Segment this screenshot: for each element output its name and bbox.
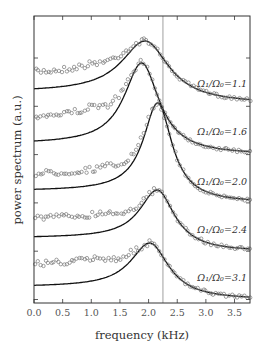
data-point <box>106 106 109 109</box>
data-point <box>70 111 73 114</box>
data-point <box>95 63 98 66</box>
data-point <box>75 68 78 71</box>
data-point <box>137 143 140 146</box>
series-label: Ω₁/Ω₀=3.1 <box>196 272 247 283</box>
data-point <box>52 215 55 218</box>
data-point <box>36 260 39 263</box>
x-tick-label: 0.0 <box>26 307 41 318</box>
data-point <box>55 258 58 261</box>
data-point <box>62 65 65 68</box>
data-point <box>46 261 49 264</box>
data-point <box>122 51 125 54</box>
data-point <box>119 55 122 58</box>
series-label: Ω₁/Ω₀=1.1 <box>196 78 247 89</box>
x-axis-label: frequency (kHz) <box>95 328 189 342</box>
data-point <box>104 103 107 106</box>
data-point <box>86 65 89 68</box>
data-point <box>122 212 125 215</box>
data-point <box>39 215 42 218</box>
data-point <box>127 253 130 256</box>
data-point <box>139 136 142 139</box>
data-point <box>109 259 112 262</box>
data-point <box>134 41 137 44</box>
data-point <box>85 171 88 174</box>
x-tick-label: 3.0 <box>198 307 213 318</box>
data-point <box>129 248 132 251</box>
data-point <box>59 263 62 266</box>
data-point <box>49 71 52 74</box>
x-tick-label: 2.5 <box>170 307 185 318</box>
x-tick-label: 1.5 <box>112 307 127 318</box>
fit-curve <box>34 41 249 100</box>
data-point <box>91 210 94 213</box>
data-point <box>102 257 105 260</box>
series-label: Ω₁/Ω₀=1.6 <box>196 126 247 137</box>
data-point <box>132 153 135 156</box>
data-point <box>86 108 89 111</box>
data-point <box>124 82 127 85</box>
data-point <box>126 78 129 81</box>
data-point <box>140 201 143 204</box>
data-point <box>135 246 138 249</box>
trace-1 <box>34 37 252 103</box>
data-point <box>39 71 42 74</box>
data-point <box>88 165 91 168</box>
power-spectrum-chart: 0.00.51.01.52.02.53.03.5 Ω₁/Ω₀=1.1Ω₁/Ω₀=… <box>0 0 263 352</box>
data-point <box>101 213 104 216</box>
data-point <box>152 187 155 190</box>
data-point <box>104 259 107 262</box>
spectrum-traces <box>33 37 252 300</box>
data-point <box>71 69 74 72</box>
data-point <box>88 216 91 219</box>
series-label: Ω₁/Ω₀=2.0 <box>196 176 247 187</box>
x-tick-label: 0.5 <box>55 307 70 318</box>
data-point <box>129 207 132 210</box>
data-point <box>73 107 76 110</box>
data-point <box>36 214 39 217</box>
data-point <box>49 170 52 173</box>
data-point <box>134 148 137 151</box>
data-point <box>101 103 104 106</box>
data-point <box>132 252 135 255</box>
data-point <box>75 257 78 260</box>
x-tick-label: 3.5 <box>227 307 242 318</box>
data-point <box>111 99 114 102</box>
data-point <box>112 256 115 259</box>
data-point <box>57 215 60 218</box>
x-tick-label: 2.0 <box>141 307 156 318</box>
data-point <box>139 58 142 61</box>
data-point <box>106 162 109 165</box>
data-point <box>114 95 117 98</box>
data-point <box>109 103 112 106</box>
data-point <box>93 103 96 106</box>
trace-3 <box>34 102 252 202</box>
data-point <box>84 166 87 169</box>
series-label: Ω₁/Ω₀=2.4 <box>196 224 247 235</box>
fit-curve <box>34 63 249 152</box>
data-point <box>60 70 63 73</box>
series-labels: Ω₁/Ω₀=1.1Ω₁/Ω₀=1.6Ω₁/Ω₀=2.0Ω₁/Ω₀=2.4Ω₁/Ω… <box>196 78 247 283</box>
data-point <box>95 165 98 168</box>
y-axis-label: power spectrum (a.u.) <box>10 95 24 224</box>
data-point <box>59 114 62 117</box>
data-point <box>98 60 101 63</box>
data-point <box>44 259 47 262</box>
x-tick-label: 1.0 <box>84 307 99 318</box>
data-point <box>98 104 101 107</box>
data-point <box>117 96 120 99</box>
